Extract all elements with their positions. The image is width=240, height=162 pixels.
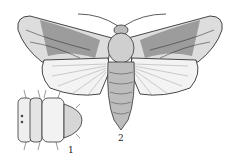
figure-label-2: 2 [118,133,124,143]
larva-segment [18,90,82,150]
moth-figure: 1 2 [0,0,240,162]
figure-label-1: 1 [68,145,74,155]
